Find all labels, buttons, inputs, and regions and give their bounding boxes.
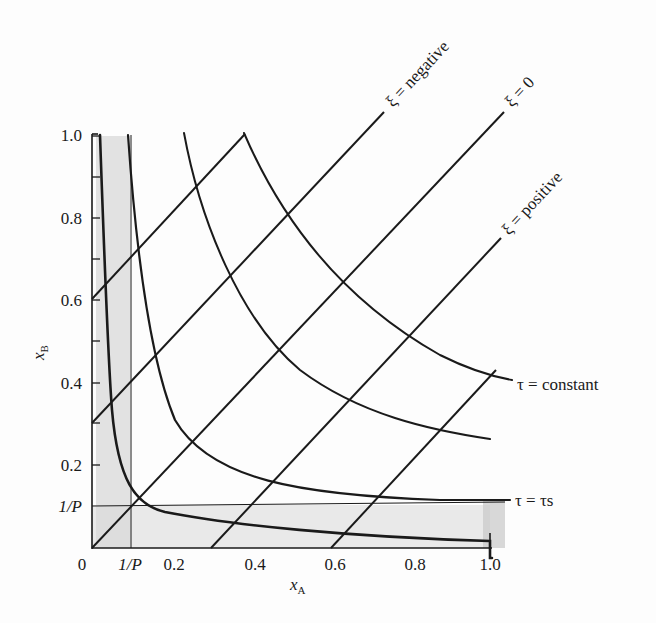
y-axis-title: xB — [29, 345, 50, 361]
diagram: 1.0 0.8 0.6 0.4 0.2 1/P 0 1/P 0.2 0.4 0.… — [0, 0, 656, 623]
x-tick-0-4: 0.4 — [244, 555, 266, 574]
tau-s-curve — [128, 135, 510, 500]
y-tick-0-4: 0.4 — [61, 374, 83, 393]
x-tick-0: 0 — [78, 555, 87, 574]
y-tick-0-8: 0.8 — [61, 209, 82, 228]
tau-constant-label: τ = constant — [517, 375, 599, 394]
xi-zero-label-group: ξ = 0 — [501, 73, 538, 111]
shaded-region-xb — [92, 505, 490, 548]
x-tick-1-0: 1.0 — [479, 555, 500, 574]
y-tick-1-0: 1.0 — [61, 126, 82, 145]
x-axis-title: xA — [289, 575, 306, 596]
y-axis-title-group: xB — [29, 345, 50, 361]
x-tick-0-6: 0.6 — [324, 555, 345, 574]
x-tick-0-2: 0.2 — [163, 555, 184, 574]
x-tick-labels: 0 1/P 0.2 0.4 0.6 0.8 1.0 — [78, 555, 501, 574]
tau-s-label: τ = τs — [515, 491, 553, 510]
y-tick-1-over-p: 1/P — [58, 497, 82, 516]
xi-zero-label: ξ = 0 — [501, 73, 538, 111]
xi-positive-label: ξ = positive — [498, 168, 566, 239]
xi-line-negative-2 — [92, 112, 384, 423]
tau-constant-inner-curve — [184, 133, 490, 439]
xi-negative-label-group: ξ = negative — [382, 37, 453, 111]
y-tick-0-2: 0.2 — [61, 456, 82, 475]
x-tick-0-8: 0.8 — [404, 555, 425, 574]
x-tick-1-over-p: 1/P — [118, 555, 142, 574]
y-tick-labels: 1.0 0.8 0.6 0.4 0.2 1/P — [58, 126, 82, 516]
tau-constant-curve — [244, 133, 512, 380]
tau-curves — [100, 133, 512, 558]
xi-lines — [92, 112, 504, 548]
tau-s-boundary-curve — [100, 135, 492, 558]
xi-line-positive-1 — [211, 238, 501, 548]
y-tick-0-6: 0.6 — [61, 291, 82, 310]
xi-line-zero — [92, 112, 504, 548]
xi-positive-label-group: ξ = positive — [498, 168, 566, 239]
xi-negative-label: ξ = negative — [382, 37, 453, 111]
